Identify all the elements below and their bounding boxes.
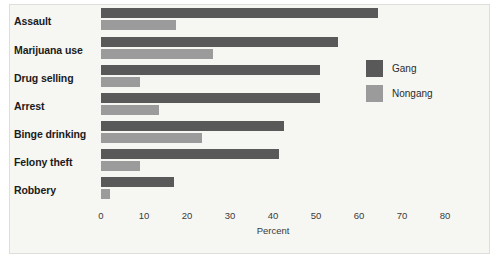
category-label: Felony theft [14, 156, 102, 168]
bar-gang [101, 93, 320, 103]
x-axis-tick-label: 30 [225, 210, 236, 221]
bar-nongang [101, 161, 140, 171]
bar-gang [101, 149, 279, 159]
x-axis-tick-label: 60 [354, 210, 365, 221]
bar-gang [101, 65, 320, 75]
x-axis-tick-label: 0 [98, 210, 103, 221]
x-axis-title: Percent [257, 225, 290, 236]
category-axis-labels: AssaultMarijuana useDrug sellingArrestBi… [14, 10, 102, 205]
x-axis-tick-label: 20 [182, 210, 193, 221]
bar-group [101, 149, 445, 173]
bar-nongang [101, 105, 159, 115]
bar-gang [101, 121, 284, 131]
bar-group [101, 177, 445, 201]
chart-figure: AssaultMarijuana useDrug sellingArrestBi… [0, 0, 497, 262]
bar-nongang [101, 189, 110, 199]
bar-nongang [101, 133, 202, 143]
legend-label: Gang [392, 63, 416, 74]
legend-item[interactable]: Nongang [366, 84, 476, 104]
x-axis-tick-label: 40 [268, 210, 279, 221]
bar-nongang [101, 20, 176, 30]
bar-group [101, 121, 445, 145]
bar-nongang [101, 49, 213, 59]
x-axis-tick-label: 80 [440, 210, 451, 221]
legend-item[interactable]: Gang [366, 59, 476, 79]
category-label: Assault [14, 15, 102, 27]
legend-swatch-nongang [366, 85, 383, 102]
x-axis: Percent 01020304050607080 [101, 206, 445, 240]
category-label: Robbery [14, 184, 102, 196]
bar-gang [101, 37, 338, 47]
bar-gang [101, 8, 378, 18]
bar-group [101, 8, 445, 32]
x-axis-tick-label: 10 [139, 210, 150, 221]
legend-label: Nongang [392, 88, 433, 99]
category-label: Binge drinking [14, 128, 102, 140]
x-axis-tick-label: 70 [397, 210, 408, 221]
x-axis-tick-label: 50 [311, 210, 322, 221]
bar-gang [101, 177, 174, 187]
category-label: Marijuana use [14, 44, 102, 56]
chart-legend: GangNongang [366, 59, 476, 109]
bar-nongang [101, 77, 140, 87]
category-label: Drug selling [14, 72, 102, 84]
bar-group [101, 37, 445, 61]
legend-swatch-gang [366, 60, 383, 77]
category-label: Arrest [14, 100, 102, 112]
